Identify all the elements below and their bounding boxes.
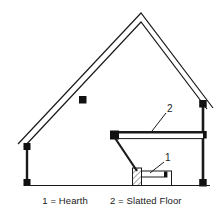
hearth-block	[133, 168, 172, 186]
left-wall	[24, 143, 31, 186]
chute-left-slope	[115, 138, 137, 171]
slatted-floor-left-post-marker	[110, 131, 119, 140]
left-wall-top-joint-marker	[24, 143, 31, 150]
hearth-hatched-block	[133, 168, 142, 186]
callout-hearth: 1	[150, 152, 171, 173]
callout-2-leader-line	[152, 113, 166, 131]
hearth-end-cap	[164, 172, 167, 178]
building-cross-section-svg: 2 1	[0, 0, 224, 216]
right-wall	[199, 100, 207, 187]
callout-slatted-floor: 2	[152, 103, 173, 131]
callout-2-number: 2	[167, 103, 173, 114]
legend-item-hearth: 1 = Hearth	[42, 196, 88, 206]
legend: 1 = Hearth 2 = Slatted Floor	[0, 192, 224, 210]
slatted-floor-platform	[110, 131, 203, 140]
diagram-root: 2 1 1 = Hearth 2 = Slatted Floor	[0, 0, 224, 216]
left-roof-joint-marker	[79, 96, 87, 104]
chute-slope	[115, 138, 137, 171]
legend-item-slatted-floor: 2 = Slatted Floor	[110, 196, 182, 206]
callout-1-number: 1	[165, 152, 171, 163]
gabled-roof	[18, 13, 213, 147]
right-wall-top-joint-marker	[199, 100, 207, 108]
